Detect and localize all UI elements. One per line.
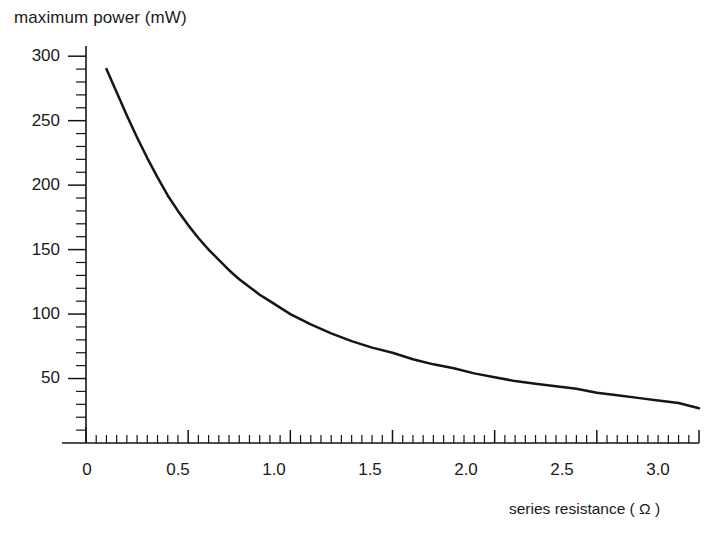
x-tick-marks [86, 427, 699, 443]
data-curve-maximum-power [106, 69, 699, 408]
chart-figure: maximum power (mW) series resistance ( Ω… [0, 0, 728, 542]
plot-area [0, 0, 728, 542]
y-tick-marks [68, 56, 86, 430]
axes-group [62, 46, 699, 443]
